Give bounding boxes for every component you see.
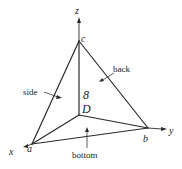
vertex-c-label: c [81, 33, 86, 44]
bottom-pointer-arrowhead-icon [85, 127, 89, 132]
side-pointer-arrowhead-icon [56, 95, 62, 99]
vertex-a-label: a [27, 143, 32, 154]
bottom-face-label: bottom [72, 150, 98, 160]
side-face-label: side [23, 87, 38, 97]
y-axis [148, 127, 167, 131]
tetrahedron-edges [32, 41, 148, 144]
x-axis-label: x [8, 146, 14, 157]
back-pointer [99, 73, 114, 82]
edge-c-a [32, 41, 79, 144]
y-axis-arrowhead-icon [161, 127, 167, 131]
y-axis-label: y [168, 125, 174, 136]
bottom-pointer [85, 127, 89, 148]
edge-D-b [79, 115, 148, 128]
back-pointer-arrowhead-icon [99, 78, 104, 82]
z-axis-label: z [74, 5, 79, 16]
z-axis-arrowhead-icon [77, 17, 81, 23]
back-face-label: back [113, 64, 130, 74]
vertex-b-label: b [143, 133, 148, 144]
origin-D-label: D [81, 102, 91, 116]
edge-a-b [32, 128, 148, 144]
center-label: 8 [83, 88, 89, 102]
tetrahedron-diagram: z y x c b a D 8 side back bottom [0, 0, 182, 169]
